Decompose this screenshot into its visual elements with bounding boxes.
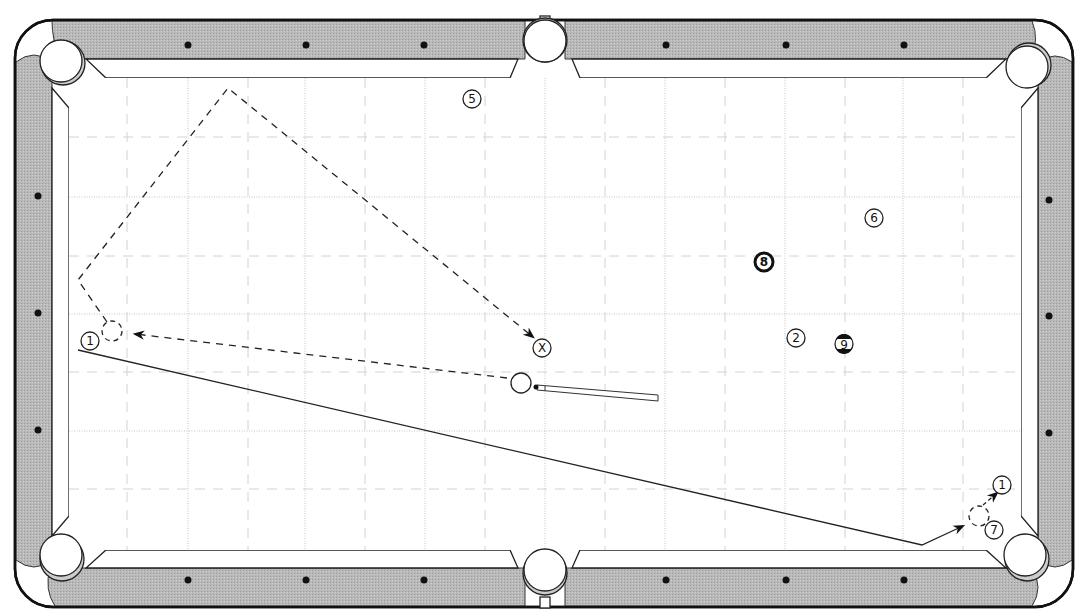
svg-text:2: 2: [792, 331, 800, 345]
diamond-icon: [783, 577, 790, 584]
pocket-bottom-left: [40, 534, 84, 581]
ball-7: 7: [985, 521, 1003, 539]
bottom-rail-left: [48, 568, 525, 606]
ball-8: 8: [755, 253, 773, 271]
diamond-icon: [421, 42, 428, 49]
pocket-top-right: [1006, 43, 1051, 88]
ball-2: 2: [787, 329, 805, 347]
ball-9: 9: [835, 334, 853, 354]
bottom-rail-right: [565, 568, 1038, 606]
ball-x-target: X: [533, 339, 551, 357]
diamond-icon: [783, 42, 790, 49]
diamond-icon: [35, 193, 42, 200]
cushion-left: [52, 88, 69, 536]
diamond-icon: [185, 42, 192, 49]
diamond-icon: [185, 577, 192, 584]
ball-5: 5: [463, 90, 481, 108]
diamond-icon: [1046, 313, 1053, 320]
cushion-top-right: [572, 59, 1006, 78]
cushion-bottom-left: [86, 550, 518, 568]
diamond-icon: [35, 310, 42, 317]
svg-text:1: 1: [86, 334, 94, 348]
svg-text:8: 8: [760, 255, 768, 269]
diamond-icon: [1046, 197, 1053, 204]
diamond-icon: [663, 42, 670, 49]
pool-table-diagram: 1 5 6 8 2 9 X 1 7: [0, 0, 1088, 614]
diamond-icon: [901, 577, 908, 584]
cushion-right: [1021, 88, 1038, 536]
diamond-icon: [35, 427, 42, 434]
diamond-icon: [1046, 430, 1053, 437]
diamond-icon: [421, 577, 428, 584]
cue-ball: [511, 373, 531, 393]
ball-6: 6: [865, 209, 883, 227]
top-rail-right: [565, 21, 1036, 59]
diamond-icon: [663, 577, 670, 584]
right-rail: [1038, 56, 1072, 567]
svg-text:6: 6: [870, 211, 878, 225]
cushion-top-left: [86, 59, 518, 78]
diamond-icon: [303, 42, 310, 49]
left-rail: [16, 55, 52, 567]
diamond-icon: [303, 577, 310, 584]
svg-text:5: 5: [468, 92, 476, 106]
cushion-bottom-right: [572, 550, 1006, 568]
svg-text:9: 9: [840, 338, 848, 352]
svg-text:1: 1: [998, 478, 1006, 492]
ball-1-destination: 1: [993, 476, 1011, 494]
top-rail-left: [52, 21, 525, 59]
diamond-icon: [901, 42, 908, 49]
svg-text:X: X: [538, 341, 546, 355]
pocket-top-left: [40, 40, 85, 85]
ball-1: 1: [81, 332, 99, 350]
svg-text:7: 7: [990, 523, 998, 537]
